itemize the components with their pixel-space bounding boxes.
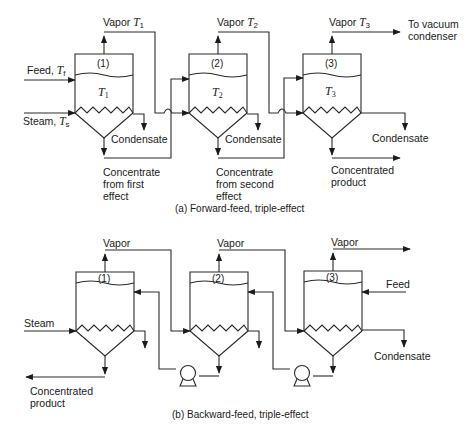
b-feed-label: Feed xyxy=(386,278,410,290)
a-effect-1-number: (1) xyxy=(97,58,109,69)
b-effect-2-number: (2) xyxy=(212,273,224,284)
b-caption: (b) Backward-feed, triple-effect xyxy=(172,409,309,420)
a-condensate-3-label: Condensate xyxy=(372,132,429,144)
b-vapor1-label: Vapor xyxy=(103,237,130,249)
b-steam-label: Steam xyxy=(24,317,54,329)
b-vapor2-label: Vapor xyxy=(217,237,244,249)
b-effect-3-vessel xyxy=(304,271,362,356)
a-effect-3-temp: T3 xyxy=(325,84,336,99)
a-condensate-1-label: Condensate xyxy=(111,133,168,145)
a-effect-2-number: (2) xyxy=(211,58,223,69)
a-effect-1-temp: T1 xyxy=(98,85,109,100)
a-vapor2-label: Vapor T2 xyxy=(217,16,258,32)
a-concentrate-1-label: Concentrate from first effect xyxy=(103,166,160,202)
pump-icon xyxy=(294,366,310,387)
a-effect-2-temp: T2 xyxy=(212,85,223,100)
evaporator-diagram xyxy=(0,0,475,436)
a-vacuum-label: To vacuum condenser xyxy=(408,18,459,42)
a-vapor3-label: Vapor T3 xyxy=(329,16,370,32)
a-effect-3-number: (3) xyxy=(325,58,337,69)
a-steam-label: Steam, Ts xyxy=(23,115,70,131)
b-effect-3-number: (3) xyxy=(326,272,338,283)
b-effect-2-vessel xyxy=(190,272,248,356)
b-effect-1-number: (1) xyxy=(98,273,110,284)
a-product-label: Concentrated product xyxy=(331,164,394,188)
a-vapor1-label: Vapor T1 xyxy=(103,16,144,32)
a-condensate-2-label: Condensate xyxy=(225,133,282,145)
b-product-label: Concentrated product xyxy=(30,385,93,409)
a-concentrate-2-label: Concentrate from second effect xyxy=(216,166,274,202)
pump-icon xyxy=(180,366,196,387)
a-feed-label: Feed, Tf xyxy=(27,64,65,80)
b-vapor3-label: Vapor xyxy=(331,236,358,248)
b-condensate-label: Condensate xyxy=(374,350,431,362)
a-caption: (a) Forward-feed, triple-effect xyxy=(175,203,304,214)
b-effect-1-vessel xyxy=(76,272,134,356)
